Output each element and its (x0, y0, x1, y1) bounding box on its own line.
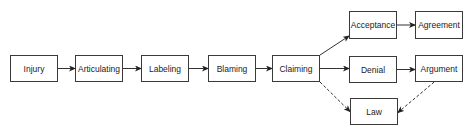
node-claiming: Claiming (272, 55, 320, 82)
node-articulating: Articulating (75, 55, 123, 82)
edge-claiming-to-acceptance (320, 36, 349, 55)
node-label: Claiming (279, 64, 312, 74)
node-label: Injury (24, 64, 45, 74)
node-argument: Argument (415, 55, 463, 82)
node-agreement: Agreement (415, 11, 463, 39)
node-label: Denial (361, 65, 385, 75)
dispute-transformation-diagram: Injury Articulating Labeling Blaming Cla… (0, 0, 472, 139)
node-label: Agreement (418, 20, 460, 30)
node-label: Blaming (217, 64, 248, 74)
edge-claiming-to-law (320, 82, 350, 112)
node-label: Law (366, 107, 382, 117)
node-denial: Denial (349, 56, 397, 83)
node-injury: Injury (10, 55, 58, 82)
node-blaming: Blaming (208, 55, 256, 82)
edge-argument-to-law (398, 82, 434, 113)
node-label: Argument (421, 64, 458, 74)
node-acceptance: Acceptance (349, 11, 397, 39)
node-label: Acceptance (351, 20, 395, 30)
node-label: Labeling (149, 64, 181, 74)
node-label: Articulating (78, 64, 120, 74)
node-law: Law (350, 98, 398, 125)
node-labeling: Labeling (141, 55, 189, 82)
